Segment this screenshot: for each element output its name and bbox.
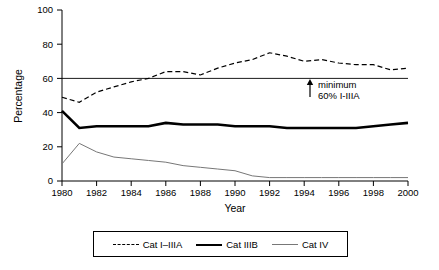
x-tick-label: 1992 [259,187,280,198]
legend-item-cat-iiib: Cat IIIB [196,239,258,250]
x-tick-labels: 1980 1982 1984 1986 1988 1990 1992 1994 … [51,187,418,198]
thick-line-icon [196,241,222,248]
legend-label: Cat IV [302,239,328,250]
up-arrow-head-icon [307,79,313,85]
legend-label: Cat I–IIIA [143,239,183,250]
y-tick-labels: 0 20 40 60 80 100 [37,4,53,186]
x-tick-label: 1988 [190,187,211,198]
chart-plot: 0 20 40 60 80 100 1980 1982 1984 1986 [0,0,439,215]
series-line-cat-iv [62,143,408,177]
x-tick-label: 1990 [224,187,245,198]
y-tick-label: 0 [48,175,53,186]
x-tick-marks [62,181,408,186]
legend-item-cat-i-iiia: Cat I–IIIA [113,239,183,250]
y-tick-label: 100 [37,4,53,15]
y-tick-marks [57,10,62,181]
series-line-cat-iiib [62,111,408,128]
chart-legend: Cat I–IIIA Cat IIIB Cat IV [93,231,348,257]
dashed-line-icon [113,241,139,248]
chart-figure: 0 20 40 60 80 100 1980 1982 1984 1986 [0,0,439,270]
x-tick-label: 1994 [294,187,315,198]
y-tick-label: 20 [42,141,53,152]
reference-annotation: minimum 60% I-IIIA [307,79,361,101]
x-tick-label: 1984 [121,187,142,198]
reference-label-line2: 60% I-IIIA [318,90,360,101]
x-tick-label: 1998 [363,187,384,198]
y-axis-title: Percentage [12,69,24,123]
y-tick-label: 40 [42,107,53,118]
x-tick-label: 1980 [51,187,72,198]
y-tick-label: 60 [42,73,53,84]
x-tick-label: 1982 [86,187,107,198]
x-tick-label: 1986 [155,187,176,198]
thin-line-icon [272,241,298,248]
x-axis-title: Year [224,202,246,214]
x-tick-label: 1996 [328,187,349,198]
x-tick-label: 2000 [397,187,418,198]
y-tick-label: 80 [42,39,53,50]
legend-label: Cat IIIB [226,239,258,250]
reference-label-line1: minimum [318,79,357,90]
legend-item-cat-iv: Cat IV [272,239,328,250]
